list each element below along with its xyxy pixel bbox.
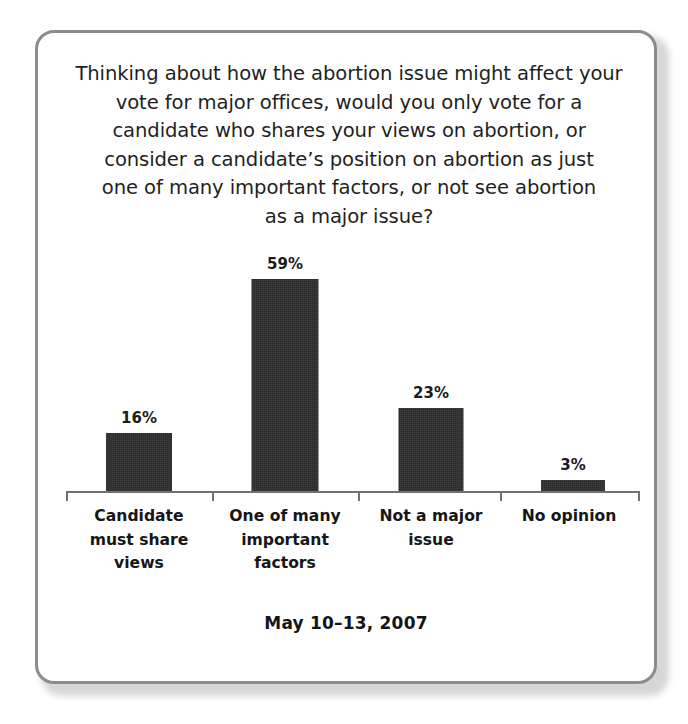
bar-rect-1 — [252, 279, 319, 491]
category-label-2-line-2: issue — [358, 529, 504, 553]
x-axis-tick-1 — [212, 491, 214, 501]
x-axis-tick-2 — [358, 491, 360, 501]
x-axis-tick-0 — [66, 491, 68, 501]
category-label-1: One of many important factors — [212, 505, 358, 576]
category-label-0-line-1: Candidate — [66, 505, 212, 529]
bar-rect-0 — [106, 433, 172, 491]
category-label-0: Candidate must share views — [66, 505, 212, 576]
bar-column-no-opinion: 3% — [500, 231, 646, 491]
x-axis-tick-3 — [500, 491, 502, 501]
bar-value-label-3: 3% — [560, 456, 585, 474]
x-axis-line — [66, 491, 640, 493]
bar-column-candidate-must-share-views: 16% — [66, 231, 212, 491]
chart-card: Thinking about how the abortion issue mi… — [35, 30, 657, 684]
bar-column-not-a-major-issue: 23% — [358, 231, 504, 491]
category-label-2-line-1: Not a major — [358, 505, 504, 529]
survey-date-footer: May 10–13, 2007 — [38, 613, 654, 633]
bar-value-label-1: 59% — [267, 255, 303, 273]
category-label-2: Not a major issue — [358, 505, 504, 552]
category-label-0-line-2: must share — [66, 529, 212, 553]
x-axis-tick-4 — [638, 491, 640, 501]
bar-value-label-0: 16% — [121, 409, 157, 427]
category-label-3: No opinion — [496, 505, 642, 529]
bar-column-one-of-many-important-factors: 59% — [212, 231, 358, 491]
category-label-1-line-3: factors — [212, 552, 358, 576]
bar-value-label-2: 23% — [413, 384, 449, 402]
category-label-3-line-1: No opinion — [496, 505, 642, 529]
category-label-1-line-2: important — [212, 529, 358, 553]
bar-rect-3 — [541, 480, 605, 491]
category-label-0-line-3: views — [66, 552, 212, 576]
category-label-1-line-1: One of many — [212, 505, 358, 529]
x-axis-category-labels: Candidate must share views One of many i… — [66, 505, 640, 595]
bar-rect-2 — [399, 408, 464, 491]
bar-chart-plot-area: 16% 59% 23% 3% Candidate must share vi — [38, 33, 654, 681]
